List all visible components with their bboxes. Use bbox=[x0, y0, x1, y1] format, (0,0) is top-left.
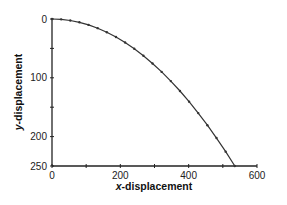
data-point-marker bbox=[151, 62, 153, 64]
data-point-marker bbox=[78, 21, 80, 23]
data-point-marker bbox=[96, 27, 98, 29]
data-point-marker bbox=[142, 55, 144, 57]
data-point-marker bbox=[69, 19, 71, 21]
data-point-marker bbox=[188, 100, 190, 102]
y-axis-title: y-displacement bbox=[12, 53, 24, 131]
data-point-marker bbox=[160, 71, 162, 73]
data-point-marker bbox=[124, 41, 126, 43]
data-point-marker bbox=[170, 80, 172, 82]
x-axis-title: x-displacement bbox=[115, 180, 193, 192]
y-tick-label: 250 bbox=[30, 161, 47, 172]
data-point-marker bbox=[206, 124, 208, 126]
data-point-marker bbox=[87, 24, 89, 26]
x-tick-label: 600 bbox=[249, 170, 266, 181]
data-point-marker bbox=[179, 90, 181, 92]
y-tick-label: 200 bbox=[30, 131, 47, 142]
x-tick-label: 0 bbox=[49, 170, 55, 181]
data-point-marker bbox=[133, 48, 135, 50]
y-tick-label: 0 bbox=[41, 14, 47, 25]
data-point-marker bbox=[60, 18, 62, 20]
data-point-marker bbox=[224, 150, 226, 152]
trajectory-line bbox=[52, 19, 235, 166]
trajectory-chart: 02004006000100200250 x-displacement y-di… bbox=[0, 0, 287, 205]
data-point-marker bbox=[234, 165, 236, 167]
data-point-marker bbox=[106, 31, 108, 33]
axes: 02004006000100200250 bbox=[30, 14, 265, 182]
data-point-marker bbox=[115, 36, 117, 38]
data-point-marker bbox=[51, 18, 53, 20]
data-series bbox=[51, 18, 236, 167]
y-tick-label: 100 bbox=[30, 72, 47, 83]
data-point-marker bbox=[197, 112, 199, 114]
data-point-marker bbox=[215, 137, 217, 139]
